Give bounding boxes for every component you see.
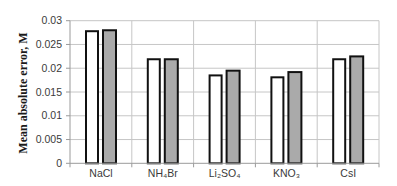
bar-chart: 0 0.005 0.01 0.015 0.02 0.025 0.03 NaCl …	[0, 0, 397, 186]
y-tick-labels: 0 0.005 0.01 0.015 0.02 0.025 0.03	[36, 14, 62, 169]
y-tick-label: 0.015	[36, 86, 62, 98]
bar-gray	[288, 72, 301, 163]
y-tick-label: 0.025	[36, 38, 62, 50]
x-category-label: CsI	[340, 167, 356, 179]
bar-gray	[165, 59, 178, 163]
y-tick-label: 0	[56, 157, 62, 169]
bars	[86, 30, 363, 163]
x-category-label: Li₂SO₄	[209, 167, 241, 179]
bar-white	[148, 59, 160, 163]
x-category-label: NaCl	[89, 167, 112, 179]
x-category-labels: NaCl NH₄Br Li₂SO₄ KNO₃ CsI	[89, 167, 356, 179]
bar-white	[333, 59, 345, 163]
y-tick-label: 0.005	[36, 133, 62, 145]
y-tick-label: 0.01	[42, 109, 63, 121]
bar-white	[271, 77, 283, 163]
bar-white	[210, 75, 222, 163]
x-category-label: KNO₃	[273, 167, 300, 179]
bar-gray	[350, 56, 363, 163]
y-tick-label: 0.03	[42, 14, 63, 26]
bar-white	[86, 31, 98, 163]
x-category-label: NH₄Br	[148, 167, 178, 179]
y-tick-label: 0.02	[42, 62, 63, 74]
y-axis-title: Mean absolute error, M	[16, 32, 30, 153]
bar-gray	[227, 71, 240, 164]
bar-gray	[103, 30, 116, 163]
